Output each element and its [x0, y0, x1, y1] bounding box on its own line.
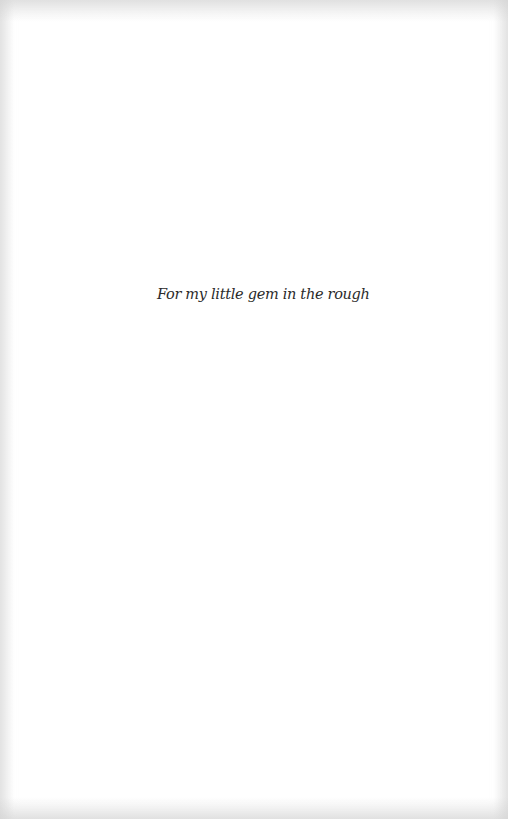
page-edge-shading — [494, 0, 508, 819]
page-edge-shading — [0, 0, 508, 22]
book-page: For my little gem in the rough — [0, 0, 508, 819]
page-edge-shading — [0, 0, 14, 819]
page-edge-shading — [0, 797, 508, 819]
dedication-text: For my little gem in the rough — [157, 286, 370, 302]
